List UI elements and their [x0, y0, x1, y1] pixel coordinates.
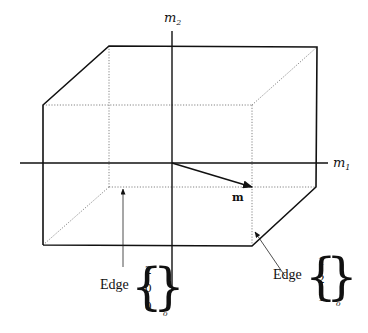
edge-121-component-1: 1 [318, 253, 325, 268]
edge-200-right-brace: } [153, 258, 185, 316]
edge-200-word: Edge [100, 277, 129, 292]
hidden-edge-bottom-left-diag [43, 187, 109, 245]
hidden-edges [43, 46, 317, 246]
edge-200-annotation: Edge { 2 0 0 } o [100, 258, 185, 318]
edge-200-component-2: 0 [145, 280, 152, 295]
edge-121-component-3: 1 [318, 289, 325, 304]
edge-200-component-3: 0 [145, 298, 152, 313]
vector-m-label: m [232, 191, 244, 204]
edge-121-word: Edge [273, 267, 302, 282]
edge-121-annotation: Edge { 1 2 1 } o [273, 248, 358, 308]
edge-200-component-1: 2 [145, 262, 152, 277]
vector-m-arrow [172, 163, 252, 187]
hidden-edge-top-right-diag [252, 47, 317, 105]
diagram-canvas: m2 m1 m Edge { 2 0 0 } o Edge { 1 2 1 } … [0, 0, 368, 333]
edge-200-subscript: o [163, 308, 168, 318]
edge-121-subscript: o [336, 298, 341, 308]
m1-axis-label: m1 [333, 155, 350, 172]
box-outline [43, 46, 317, 246]
edge-121-right-brace: } [326, 248, 358, 306]
edge-121-component-2: 2 [318, 271, 325, 286]
m2-axis-label: m2 [164, 10, 181, 27]
